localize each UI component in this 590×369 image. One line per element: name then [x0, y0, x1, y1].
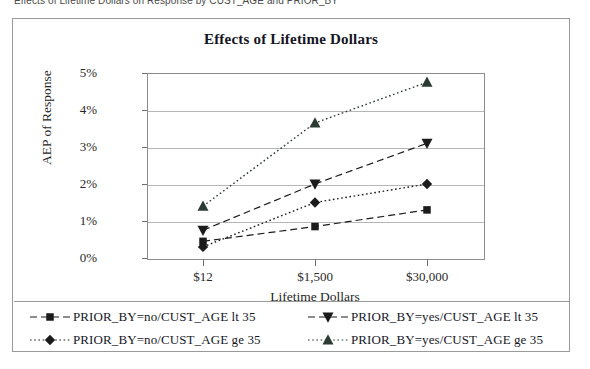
series-3	[197, 76, 432, 210]
legend-item-label: PRIOR_BY=yes/CUST_AGE lt 35	[351, 309, 538, 325]
figure-caption: Effects of Lifetime Dollars on Response …	[14, 0, 574, 6]
legend-key-square-icon	[27, 309, 73, 325]
series-layer	[13, 19, 571, 353]
plot-wrapper: 0%1%2%3%4%5% AEP of Response $12$1,500$3…	[13, 19, 571, 353]
data-point-marker	[421, 139, 432, 149]
data-point-marker	[311, 223, 319, 231]
legend-item-label: PRIOR_BY=yes/CUST_AGE ge 35	[351, 332, 543, 348]
data-point-marker	[421, 76, 432, 86]
legend-separator	[14, 301, 570, 302]
legend-item[interactable]: PRIOR_BY=yes/CUST_AGE lt 35	[305, 305, 583, 328]
legend-item[interactable]: PRIOR_BY=no/CUST_AGE ge 35	[27, 328, 305, 351]
data-point-marker	[309, 179, 320, 189]
data-point-marker	[309, 117, 320, 127]
legend-column-left: PRIOR_BY=no/CUST_AGE lt 35 PRIOR_BY=no/C…	[27, 305, 305, 351]
legend-item-label: PRIOR_BY=no/CUST_AGE ge 35	[73, 332, 261, 348]
data-point-marker	[197, 226, 208, 236]
legend-column-right: PRIOR_BY=yes/CUST_AGE lt 35 PRIOR_BY=yes…	[305, 305, 583, 351]
series-2	[197, 139, 432, 236]
legend-item[interactable]: PRIOR_BY=yes/CUST_AGE ge 35	[305, 328, 583, 351]
data-point-marker	[423, 206, 431, 214]
chart-legend: PRIOR_BY=no/CUST_AGE lt 35 PRIOR_BY=no/C…	[13, 305, 571, 351]
series-0	[199, 206, 431, 245]
data-point-marker	[422, 179, 432, 189]
legend-key-triangle-up-icon	[305, 332, 351, 348]
data-point-marker	[197, 200, 208, 210]
legend-item[interactable]: PRIOR_BY=no/CUST_AGE lt 35	[27, 305, 305, 328]
legend-key-triangle-down-icon	[305, 309, 351, 325]
data-point-marker	[310, 197, 320, 207]
legend-key-diamond-icon	[27, 332, 73, 348]
figure-frame: Effects of Lifetime Dollars 0%1%2%3%4%5%…	[12, 18, 570, 352]
legend-item-label: PRIOR_BY=no/CUST_AGE lt 35	[73, 309, 256, 325]
